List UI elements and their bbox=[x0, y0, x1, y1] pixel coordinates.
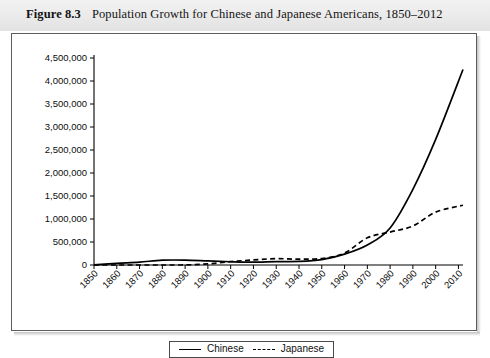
svg-text:1880: 1880 bbox=[146, 268, 169, 291]
svg-text:1970: 1970 bbox=[351, 268, 374, 291]
plot-area: 0500,0001,000,0001,500,0002,000,0002,500… bbox=[12, 34, 478, 332]
svg-text:4,000,000: 4,000,000 bbox=[45, 75, 87, 86]
svg-text:1870: 1870 bbox=[123, 268, 146, 291]
svg-text:1890: 1890 bbox=[168, 268, 191, 291]
page-footnote bbox=[0, 342, 490, 352]
svg-text:1850: 1850 bbox=[77, 268, 100, 291]
svg-text:1980: 1980 bbox=[373, 268, 396, 291]
svg-text:1930: 1930 bbox=[259, 268, 282, 291]
svg-text:1940: 1940 bbox=[282, 268, 305, 291]
svg-text:1900: 1900 bbox=[191, 268, 214, 291]
svg-text:3,000,000: 3,000,000 bbox=[45, 121, 87, 132]
line-chart: 0500,0001,000,0001,500,0002,000,0002,500… bbox=[12, 34, 478, 332]
svg-text:4,500,000: 4,500,000 bbox=[45, 52, 87, 63]
svg-text:1950: 1950 bbox=[305, 268, 328, 291]
svg-text:1,500,000: 1,500,000 bbox=[45, 190, 87, 201]
svg-text:1860: 1860 bbox=[100, 268, 123, 291]
svg-text:1,000,000: 1,000,000 bbox=[45, 213, 87, 224]
svg-text:1910: 1910 bbox=[214, 268, 237, 291]
figure-title: Population Growth for Chinese and Japane… bbox=[92, 7, 443, 21]
svg-text:1960: 1960 bbox=[328, 268, 351, 291]
figure-caption: Figure 8.3Population Growth for Chinese … bbox=[26, 7, 443, 22]
svg-text:2000: 2000 bbox=[419, 268, 442, 291]
figure-frame: 0500,0001,000,0001,500,0002,000,0002,500… bbox=[11, 33, 477, 331]
svg-text:500,000: 500,000 bbox=[53, 236, 87, 247]
svg-text:2010: 2010 bbox=[442, 268, 465, 291]
svg-text:2,000,000: 2,000,000 bbox=[45, 167, 87, 178]
svg-text:0: 0 bbox=[82, 259, 87, 270]
svg-text:3,500,000: 3,500,000 bbox=[45, 98, 87, 109]
svg-text:1920: 1920 bbox=[237, 268, 260, 291]
frame-shadow-bottom bbox=[14, 332, 480, 336]
svg-text:1990: 1990 bbox=[396, 268, 419, 291]
figure-number: Figure 8.3 bbox=[26, 7, 81, 21]
svg-text:2,500,000: 2,500,000 bbox=[45, 144, 87, 155]
